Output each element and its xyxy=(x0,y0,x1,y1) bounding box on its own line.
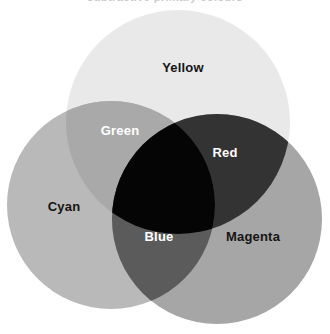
venn-circles-canvas xyxy=(0,0,330,334)
cropped-caption-fragment: subtractive primary colours xyxy=(0,0,330,10)
venn-diagram-figure: subtractive primary colours Yellow Green… xyxy=(0,0,330,334)
